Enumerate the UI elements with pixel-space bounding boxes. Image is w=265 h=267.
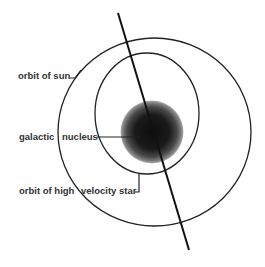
label-galactic: galactic [19, 131, 54, 142]
galactic-orbit-diagram: orbit of sun galactic nucleus orbit of h… [0, 0, 265, 267]
label-velocity-star: velocity star [81, 185, 137, 196]
label-nucleus: nucleus [62, 131, 98, 142]
label-orbit-of-high: orbit of high [19, 185, 75, 196]
galactic-nucleus [121, 101, 184, 164]
label-orbit-of-sun: orbit of sun [18, 70, 70, 81]
